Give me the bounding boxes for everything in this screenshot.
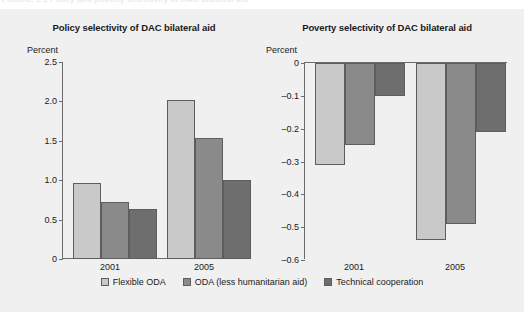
bar — [345, 63, 375, 145]
y-axis-tick-label: –0.2 — [281, 124, 299, 134]
y-axis-tick-label: –0.1 — [281, 91, 299, 101]
x-tick-label-2001: 2001 — [100, 262, 120, 272]
y-axis-tick: 0.5 — [59, 220, 63, 221]
legend-swatch-icon — [324, 278, 332, 286]
bar — [195, 138, 223, 259]
legend-swatch-icon — [183, 278, 191, 286]
y-axis-tick-label: –0.5 — [281, 222, 299, 232]
y-axis-tick-label: 1.0 — [44, 175, 57, 185]
chart-panel: Policy selectivity of DAC bilateral aid … — [0, 9, 524, 312]
bar — [129, 209, 157, 259]
chart-title-policy: Policy selectivity of DAC bilateral aid — [8, 22, 260, 33]
legend-item[interactable]: ODA (less humanitarian aid) — [183, 277, 308, 287]
x-tick-label-2005: 2005 — [194, 262, 214, 272]
y-axis-tick: 2.5 — [59, 62, 63, 63]
bar — [476, 63, 506, 132]
y-axis-tick: –0.4 — [301, 194, 305, 195]
figure-caption: FIGURE 1.1 Policy and poverty selectivit… — [2, 0, 248, 4]
bar — [375, 63, 405, 96]
y-axis-tick-label: –0.6 — [281, 255, 299, 265]
y-axis-tick: 2.0 — [59, 101, 63, 102]
legend-label: Technical cooperation — [336, 277, 423, 287]
y-axis-tick-label: 0 — [52, 254, 57, 264]
y-axis-tick: –0.5 — [301, 227, 305, 228]
y-axis-tick-label: 2.5 — [44, 57, 57, 67]
x-tick-label-2005: 2005 — [445, 262, 465, 272]
y-axis-tick: 0 — [301, 63, 305, 64]
figure-container: FIGURE 1.1 Policy and poverty selectivit… — [0, 0, 524, 312]
bar — [223, 180, 251, 259]
legend-swatch-icon — [101, 278, 109, 286]
legend-label: ODA (less humanitarian aid) — [195, 277, 308, 287]
legend-label: Flexible ODA — [113, 277, 166, 287]
plot-area-poverty: 0–0.1–0.2–0.3–0.4–0.5–0.6 — [304, 62, 507, 259]
y-axis-tick-label: 0 — [294, 58, 299, 68]
bar — [167, 100, 195, 259]
legend-item[interactable]: Technical cooperation — [324, 277, 423, 287]
y-axis-unit-policy: Percent — [27, 45, 58, 55]
chart-policy-selectivity: Policy selectivity of DAC bilateral aid … — [8, 9, 260, 271]
y-axis-tick-label: 1.5 — [44, 136, 57, 146]
y-axis-tick: –0.1 — [301, 96, 305, 97]
y-axis-tick-label: 2.0 — [44, 96, 57, 106]
chart-legend: Flexible ODAODA (less humanitarian aid)T… — [0, 277, 524, 287]
bar — [416, 63, 446, 240]
y-axis-tick: –0.6 — [301, 260, 305, 261]
x-tick-label-2001: 2001 — [344, 262, 364, 272]
y-axis-unit-poverty: Percent — [266, 45, 297, 55]
bar — [315, 63, 345, 165]
chart-title-poverty: Poverty selectivity of DAC bilateral aid — [258, 22, 516, 33]
y-axis-tick: –0.3 — [301, 162, 305, 163]
bar — [101, 202, 129, 259]
y-axis-tick: –0.2 — [301, 129, 305, 130]
y-axis-tick-label: –0.3 — [281, 157, 299, 167]
y-axis-tick: 1.5 — [59, 141, 63, 142]
y-axis-tick: 0 — [59, 259, 63, 260]
legend-item[interactable]: Flexible ODA — [101, 277, 166, 287]
chart-poverty-selectivity: Poverty selectivity of DAC bilateral aid… — [258, 9, 516, 271]
bar — [73, 183, 101, 259]
bar — [446, 63, 476, 224]
y-axis-tick-label: 0.5 — [44, 215, 57, 225]
y-axis-tick: 1.0 — [59, 180, 63, 181]
plot-area-policy: 00.51.01.52.02.5 — [62, 62, 251, 259]
figure-caption-strip: FIGURE 1.1 Policy and poverty selectivit… — [0, 0, 524, 9]
y-axis-tick-label: –0.4 — [281, 189, 299, 199]
